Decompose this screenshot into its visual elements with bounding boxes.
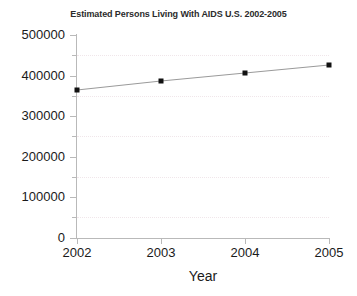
series-line-layer (0, 0, 357, 296)
data-point-2003 (159, 78, 164, 83)
data-point-2002 (75, 88, 80, 93)
data-point-2005 (327, 63, 332, 68)
chart-container: Estimated Persons Living With AIDS U.S. … (0, 0, 357, 296)
data-point-2004 (243, 71, 248, 76)
series-line (77, 65, 329, 90)
